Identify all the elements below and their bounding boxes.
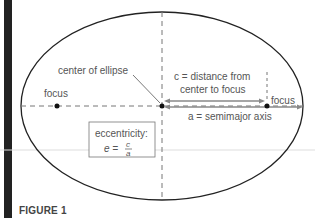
a-arrowhead-right xyxy=(297,105,303,110)
c-label-line1: c = distance from xyxy=(174,71,250,82)
a-arrowhead-left xyxy=(164,105,170,110)
focus-right-dot xyxy=(265,104,270,109)
eccentricity-title: eccentricity: xyxy=(95,128,148,139)
center-dot xyxy=(160,104,165,109)
eccentricity-lhs: e = xyxy=(104,143,118,154)
focus-left-label: focus xyxy=(44,88,68,99)
ellipse-diagram: center of ellipse focus focus c = distan… xyxy=(0,0,315,222)
c-label-line2: center to focus xyxy=(180,84,246,95)
focus-right-label: focus xyxy=(271,95,295,106)
figure-caption: FIGURE 1 xyxy=(19,205,67,216)
focus-left-dot xyxy=(55,104,60,109)
a-label: a = semimajor axis xyxy=(188,111,272,122)
c-arrowhead-left xyxy=(164,99,170,104)
center-label: center of ellipse xyxy=(58,65,128,76)
c-arrowhead-right xyxy=(259,99,265,104)
center-pointer-line xyxy=(133,75,160,103)
eccentricity-numerator: c xyxy=(126,140,130,149)
eccentricity-denominator: a xyxy=(126,149,131,158)
